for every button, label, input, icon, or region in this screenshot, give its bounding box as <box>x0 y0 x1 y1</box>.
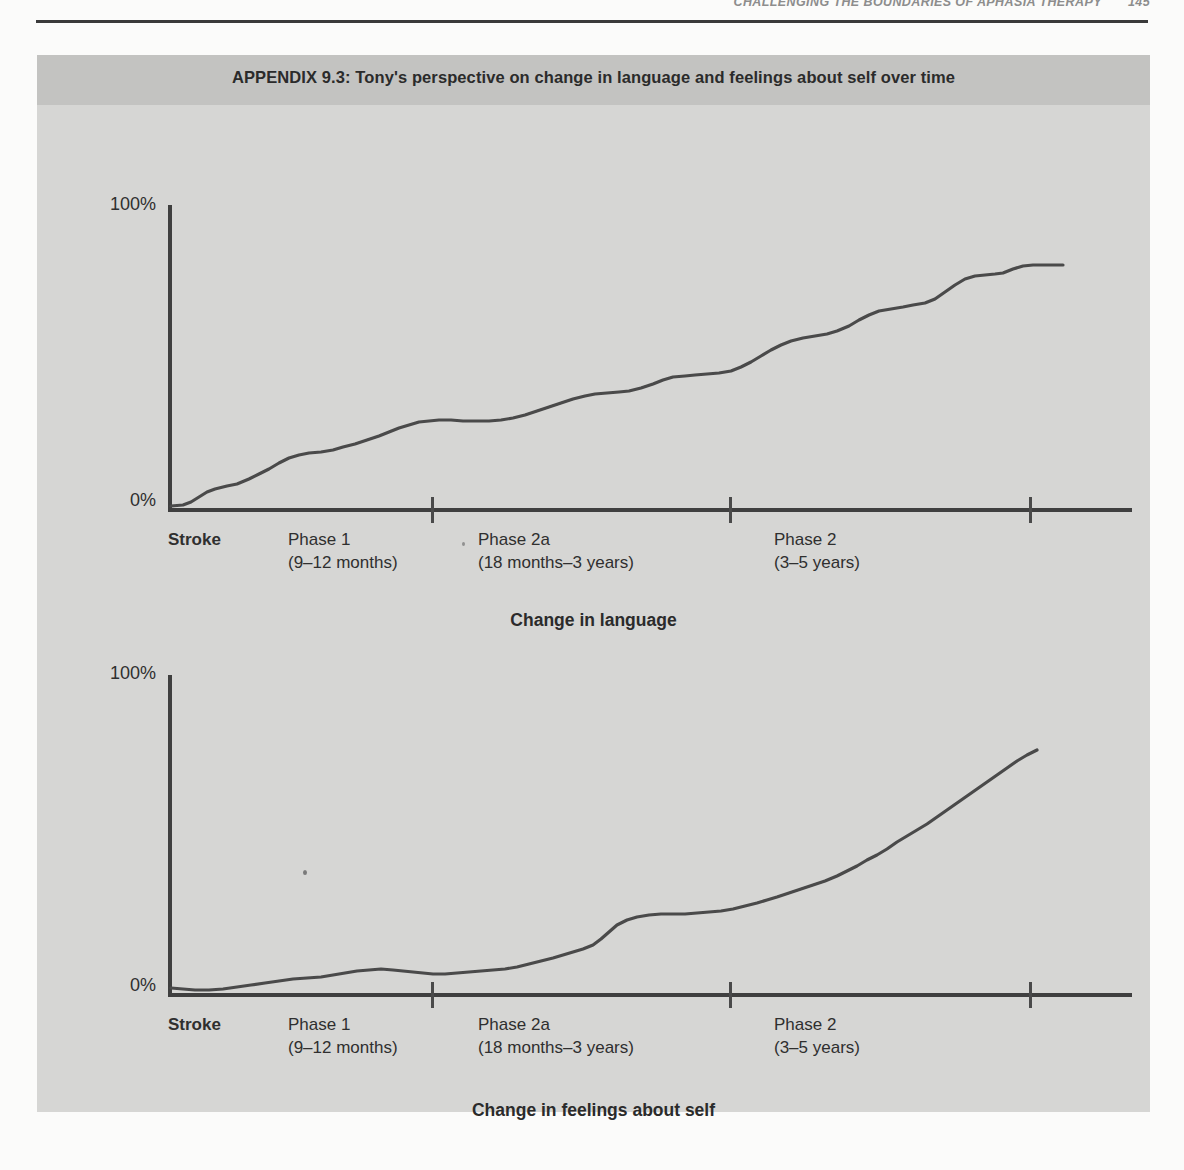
figure-panel: APPENDIX 9.3: Tony's perspective on chan… <box>37 55 1150 1112</box>
scan-speck-icon <box>462 542 465 546</box>
running-header-title: CHALLENGING THE BOUNDARIES OF APHASIA TH… <box>733 0 1101 9</box>
chart2-xlabel-phase2a-name: Phase 2a <box>478 1015 550 1034</box>
chart2-xlabel-phase1: Phase 1 (9–12 months) <box>288 1013 398 1059</box>
chart1-xlabel-phase1: Phase 1 (9–12 months) <box>288 528 398 574</box>
chart-change-in-feelings-about-self: 100% 0% Stroke Phase 1 (9–12 months) Pha… <box>37 570 1150 1112</box>
chart1-xlabel-stroke-name: Stroke <box>168 530 221 549</box>
chart2-xlabel-stroke-name: Stroke <box>168 1015 221 1034</box>
page-root: CHALLENGING THE BOUNDARIES OF APHASIA TH… <box>0 0 1184 1170</box>
chart-change-in-language: 100% 0% Stroke Phase 1 (9–12 months) Pha… <box>37 105 1150 635</box>
chart1-xlabel-phase2: Phase 2 (3–5 years) <box>774 528 860 574</box>
chart2-xlabel-phase2: Phase 2 (3–5 years) <box>774 1013 860 1059</box>
scan-speck-icon <box>303 870 307 875</box>
chart1-xlabel-phase2a: Phase 2a (18 months–3 years) <box>478 528 634 574</box>
chart2-xlabel-phase2-sub: (3–5 years) <box>774 1036 860 1059</box>
header-rule <box>36 20 1148 23</box>
chart2-caption: Change in feelings about self <box>37 1100 1150 1121</box>
page-number: 145 <box>1128 0 1150 9</box>
chart1-xlabel-phase2a-name: Phase 2a <box>478 530 550 549</box>
chart1-xlabel-stroke: Stroke <box>168 528 221 551</box>
chart2-xlabel-stroke: Stroke <box>168 1013 221 1036</box>
chart1-xlabel-phase1-name: Phase 1 <box>288 530 350 549</box>
running-header: CHALLENGING THE BOUNDARIES OF APHASIA TH… <box>0 0 1184 14</box>
chart2-xlabel-phase1-sub: (9–12 months) <box>288 1036 398 1059</box>
chart1-xlabel-phase2-name: Phase 2 <box>774 530 836 549</box>
chart2-xlabel-phase2a-sub: (18 months–3 years) <box>478 1036 634 1059</box>
figure-title: APPENDIX 9.3: Tony's perspective on chan… <box>37 68 1150 87</box>
chart2-xlabel-phase1-name: Phase 1 <box>288 1015 350 1034</box>
chart2-xlabel-phase2-name: Phase 2 <box>774 1015 836 1034</box>
chart2-xlabel-phase2a: Phase 2a (18 months–3 years) <box>478 1013 634 1059</box>
